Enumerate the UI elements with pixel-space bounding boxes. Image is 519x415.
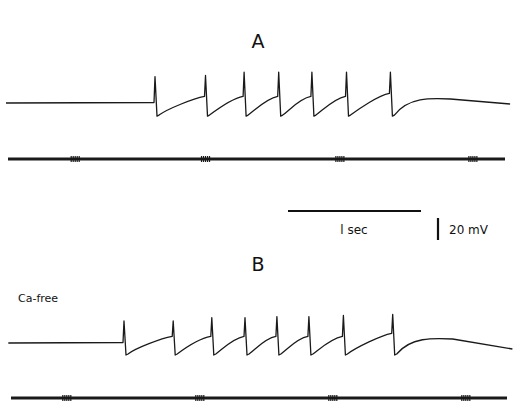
panel-a-label: A (252, 30, 265, 52)
trace-b (8, 314, 512, 355)
panel-b-label: B (251, 253, 264, 275)
stimulus-marker-a (8, 156, 505, 162)
condition-label-ca-free: Ca-free (18, 292, 58, 305)
time-scale-label: l sec (340, 223, 367, 237)
membrane-potential-line (6, 72, 510, 116)
trace-a (6, 72, 510, 116)
stimulus-marker-b (11, 395, 507, 401)
figure: A l sec 20 mV B Ca-free (0, 0, 519, 415)
voltage-scale-label: 20 mV (449, 223, 489, 237)
membrane-potential-line (8, 314, 512, 355)
